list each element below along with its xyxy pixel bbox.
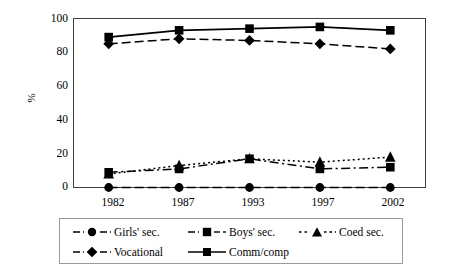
- chart-legend: Girls' sec. Boys' sec.: [59, 218, 403, 264]
- diamond-marker-icon: [72, 245, 112, 259]
- data-point: [174, 33, 185, 44]
- legend-label-comm-comp: Comm/comp: [227, 246, 289, 258]
- square-marker-icon: [187, 225, 227, 239]
- square-marker-icon: [187, 245, 227, 259]
- data-point: [316, 183, 325, 192]
- series-vocational: [103, 33, 395, 54]
- legend-row-1: Girls' sec. Boys' sec.: [60, 221, 402, 242]
- data-point: [316, 23, 325, 32]
- legend-label-coed-sec: Coed sec.: [337, 226, 384, 238]
- legend-item-vocational[interactable]: Vocational: [72, 241, 163, 262]
- legend-item-coed-sec[interactable]: Coed sec.: [297, 221, 384, 242]
- legend-item-comm-comp[interactable]: Comm/comp: [187, 241, 289, 262]
- legend-label-girls-sec: Girls' sec.: [112, 226, 160, 238]
- series-layer: [103, 23, 395, 192]
- data-point: [245, 24, 254, 33]
- line-chart: % 100 80 60 40 20 0 1982 1987 1993 1997 …: [0, 0, 454, 274]
- legend-label-boys-sec: Boys' sec.: [227, 226, 275, 238]
- data-point: [386, 183, 395, 192]
- legend-row-2: Vocational Comm/comp: [60, 241, 402, 262]
- data-point: [175, 183, 184, 192]
- legend-item-girls-sec[interactable]: Girls' sec.: [72, 221, 160, 242]
- legend-item-boys-sec[interactable]: Boys' sec.: [187, 221, 275, 242]
- data-point: [244, 35, 255, 46]
- triangle-marker-icon: [297, 225, 337, 239]
- data-point: [315, 38, 326, 49]
- data-point: [175, 26, 184, 35]
- data-point: [104, 183, 113, 192]
- data-point: [104, 33, 113, 42]
- data-point: [385, 44, 396, 55]
- data-point: [385, 151, 396, 161]
- data-point: [386, 26, 395, 35]
- legend-label-vocational: Vocational: [112, 246, 163, 258]
- circle-marker-icon: [72, 225, 112, 239]
- series-girls-sec: [104, 183, 394, 192]
- data-point: [245, 183, 254, 192]
- series-coed-sec: [103, 151, 395, 178]
- data-point: [386, 163, 395, 172]
